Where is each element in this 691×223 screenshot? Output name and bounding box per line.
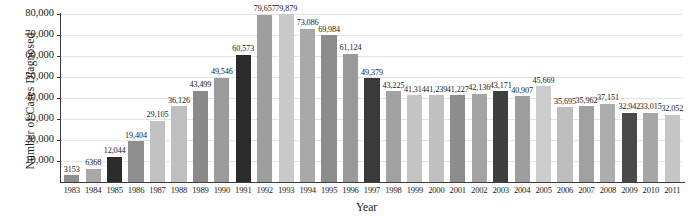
bar[interactable]: [665, 115, 680, 182]
bar-value-label: 43,225: [382, 81, 404, 90]
bar-value-label: 79,879: [275, 4, 297, 13]
bar[interactable]: [107, 157, 122, 182]
bar-value-label: 43,499: [189, 80, 211, 89]
bar-slot[interactable]: 35,962: [576, 14, 597, 182]
bar-value-label: 36,126: [168, 96, 190, 105]
bar-slot[interactable]: 73,086: [297, 14, 318, 182]
bar-value-label: 45,669: [533, 76, 555, 85]
bar-value-label: 42,136: [468, 83, 490, 92]
bar-slot[interactable]: 79,657: [254, 14, 275, 182]
bar[interactable]: [429, 95, 444, 182]
bar-slot[interactable]: 6368: [82, 14, 103, 182]
x-axis-tick-label: 1992: [254, 185, 275, 195]
x-axis-tick-labels: 1983198419851986198719881989199019911992…: [61, 185, 683, 199]
bar[interactable]: [493, 91, 508, 182]
bar-slot[interactable]: 79,879: [275, 14, 296, 182]
bar[interactable]: [557, 107, 572, 182]
bar-value-label: 49,379: [361, 68, 383, 77]
bar-slot[interactable]: 61,124: [340, 14, 361, 182]
x-axis-title-text: Year: [356, 201, 377, 213]
bar[interactable]: [622, 113, 637, 182]
bar-value-label: 12,044: [104, 146, 126, 155]
x-axis-tick-label: 1984: [82, 185, 103, 195]
bar[interactable]: [386, 91, 401, 182]
bar[interactable]: [86, 169, 101, 182]
bar[interactable]: [515, 96, 530, 182]
bar-slot[interactable]: 32,942: [619, 14, 640, 182]
bar-value-label: 32,052: [661, 104, 683, 113]
bar[interactable]: [472, 94, 487, 182]
x-axis-tick-label: 2007: [576, 185, 597, 195]
bar-slot[interactable]: 41,227: [447, 14, 468, 182]
bar-slot[interactable]: 3153: [61, 14, 82, 182]
bar-slot[interactable]: 19,404: [125, 14, 146, 182]
bar-value-label: 41,227: [447, 85, 469, 94]
bar[interactable]: [536, 86, 551, 182]
bar[interactable]: [643, 113, 658, 182]
bar-slot[interactable]: 45,669: [533, 14, 554, 182]
x-axis-tick-label: 2001: [447, 185, 468, 195]
bar-value-label: 19,404: [125, 131, 147, 140]
x-axis-tick-label: 1995: [318, 185, 339, 195]
bar-value-label: 60,573: [232, 44, 254, 53]
x-axis-tick-label: 1988: [168, 185, 189, 195]
x-axis-tick-label: 1985: [104, 185, 125, 195]
bar-slot[interactable]: 29,105: [147, 14, 168, 182]
bar-slot[interactable]: 43,225: [383, 14, 404, 182]
bar[interactable]: [579, 106, 594, 182]
bar-value-label: 69,984: [318, 25, 340, 34]
bar[interactable]: [300, 29, 315, 182]
bar-slot[interactable]: 41,239: [426, 14, 447, 182]
bar[interactable]: [193, 91, 208, 182]
y-axis-tick-label: 30,000: [0, 112, 54, 123]
bar-slot[interactable]: 49,546: [211, 14, 232, 182]
bar[interactable]: [279, 14, 294, 182]
bar-slot[interactable]: 41,314: [404, 14, 425, 182]
bar-slot[interactable]: 32,052: [662, 14, 683, 182]
bars-group: 3153636812,04419,40429,10536,12643,49949…: [61, 14, 683, 182]
bar-slot[interactable]: 69,984: [318, 14, 339, 182]
bar-slot[interactable]: 43,171: [490, 14, 511, 182]
x-axis-tick-label: 1983: [61, 185, 82, 195]
bar[interactable]: [236, 55, 251, 182]
x-axis-tick-label: 1998: [383, 185, 404, 195]
bar-slot[interactable]: 40,907: [511, 14, 532, 182]
bar[interactable]: [128, 141, 143, 182]
bar-value-label: 33,015: [640, 102, 662, 111]
bar[interactable]: [407, 95, 422, 182]
bar[interactable]: [257, 15, 272, 182]
x-axis-tick-label: 1993: [275, 185, 296, 195]
bar[interactable]: [321, 35, 336, 182]
bar[interactable]: [364, 78, 379, 182]
y-axis-tick-label: 40,000: [0, 91, 54, 102]
bar[interactable]: [150, 121, 165, 182]
bar-slot[interactable]: 33,015: [640, 14, 661, 182]
bar[interactable]: [64, 175, 79, 182]
bar-slot[interactable]: 35,695: [554, 14, 575, 182]
bar[interactable]: [600, 104, 615, 182]
y-axis-tick-label: 50,000: [0, 70, 54, 81]
bar[interactable]: [450, 95, 465, 182]
bar-slot[interactable]: 49,379: [361, 14, 382, 182]
x-axis-tick-label: 2008: [597, 185, 618, 195]
bar-slot[interactable]: 36,126: [168, 14, 189, 182]
x-axis-tick-label: 2009: [619, 185, 640, 195]
bar-slot[interactable]: 43,499: [190, 14, 211, 182]
bar-value-label: 73,086: [297, 18, 319, 27]
bar-value-label: 41,239: [425, 85, 447, 94]
bar[interactable]: [171, 106, 186, 182]
bar-value-label: 6368: [85, 158, 101, 167]
bar-value-label: 79,657: [254, 4, 276, 13]
bar-value-label: 35,695: [554, 97, 576, 106]
bar[interactable]: [343, 54, 358, 182]
x-axis-tick-label: 1994: [297, 185, 318, 195]
y-axis-tick-label: 70,000: [0, 28, 54, 39]
bar[interactable]: [214, 78, 229, 182]
bar-slot[interactable]: 37,151: [597, 14, 618, 182]
bar-slot[interactable]: 12,044: [104, 14, 125, 182]
bar-slot[interactable]: 42,136: [469, 14, 490, 182]
y-axis-tick-label: 10,000: [0, 154, 54, 165]
x-axis-tick-label: 1999: [404, 185, 425, 195]
bar-slot[interactable]: 60,573: [233, 14, 254, 182]
x-axis-tick-label: 1997: [361, 185, 382, 195]
